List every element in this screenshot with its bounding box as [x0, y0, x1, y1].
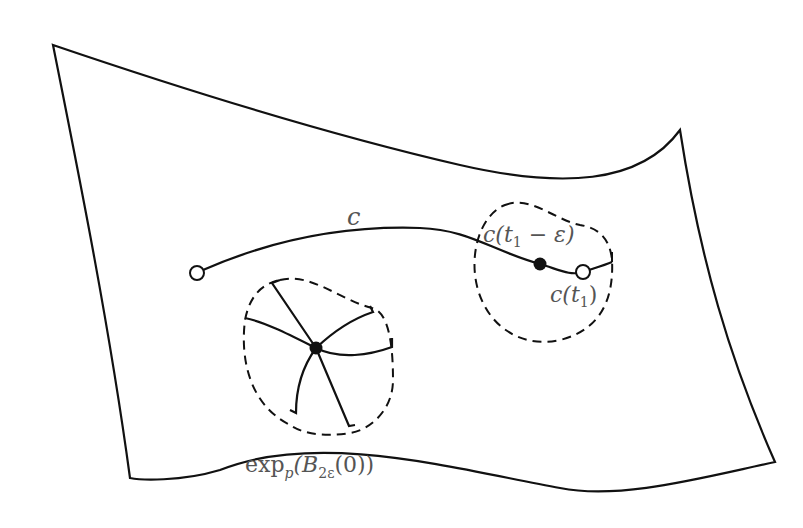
label-c-t1: c(t1) [550, 282, 597, 310]
label-c-t1-minus-eps: c(t1 − ε) [483, 222, 574, 250]
label-normal-ball: expp(B2ε(0)) [245, 452, 374, 481]
normal-ball-dashed [244, 279, 393, 435]
p-point [310, 342, 323, 355]
surface-patch-outline [53, 45, 775, 491]
c-t1-point [576, 265, 590, 279]
c-t1-minus-eps-point [534, 258, 547, 271]
label-c: c [347, 203, 360, 231]
curve-start-point [190, 266, 204, 280]
manifold-diagram: c c(t1 − ε) c(t1) expp(B2ε(0)) [0, 0, 803, 528]
